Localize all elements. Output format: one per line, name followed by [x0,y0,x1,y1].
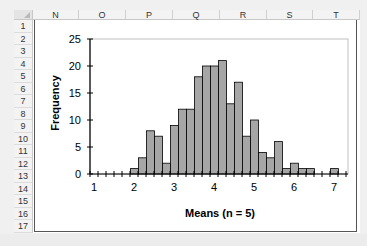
y-axis-title: Frequency [49,74,61,131]
row-header-1[interactable]: 1 [14,20,33,33]
row-header-5[interactable]: 5 [14,70,33,83]
column-header-r[interactable]: R [220,10,267,20]
y-tick-label: 15 [69,87,81,99]
row-header-9[interactable]: 9 [14,120,33,133]
row-header-10[interactable]: 10 [14,133,33,146]
row-header-16[interactable]: 16 [14,208,33,221]
spreadsheet: NOPQRST 1234567891011121314151617 051015… [0,0,367,246]
x-tick-label: 7 [331,181,337,193]
histogram-bar [147,131,155,174]
column-header-p[interactable]: P [126,10,173,20]
select-all-corner[interactable] [14,10,33,20]
row-header-15[interactable]: 15 [14,195,33,208]
histogram-bar [283,169,291,174]
histogram-bar [203,66,211,174]
histogram-bar [139,158,147,174]
row-header-8[interactable]: 8 [14,108,33,121]
histogram-bar [187,109,195,174]
histogram-bar [211,66,219,174]
y-tick-label: 5 [75,141,81,153]
histogram-bar [307,169,315,174]
row-header-6[interactable]: 6 [14,83,33,96]
histogram-bar [251,120,259,174]
histogram-bar [163,163,171,174]
histogram-bars [131,61,339,174]
histogram-bar [331,169,339,174]
x-axis-title: Means (n = 5) [185,207,255,219]
column-header-o[interactable]: O [79,10,126,20]
x-tick-label: 1 [91,181,97,193]
x-tick-label: 4 [211,181,217,193]
row-header-2[interactable]: 2 [14,33,33,46]
y-tick-label: 0 [75,168,81,180]
histogram-bar [171,125,179,174]
x-tick-label: 6 [291,181,297,193]
row-header-12[interactable]: 12 [14,158,33,171]
histogram-bar [299,169,307,174]
histogram-bar [243,136,251,174]
histogram-bar [195,77,203,174]
histogram-bar [235,82,243,174]
x-tick-label: 3 [171,181,177,193]
row-header-14[interactable]: 14 [14,183,33,196]
row-header-13[interactable]: 13 [14,170,33,183]
histogram-bar [131,169,139,174]
row-header-17[interactable]: 17 [14,220,33,233]
histogram-bar [219,61,227,174]
x-tick-label: 5 [251,181,257,193]
row-header-4[interactable]: 4 [14,58,33,71]
y-tick-label: 20 [69,60,81,72]
column-header-t[interactable]: T [313,10,360,20]
y-tick-label: 25 [69,33,81,45]
histogram-bar [267,158,275,174]
row-header-11[interactable]: 11 [14,145,33,158]
column-header-s[interactable]: S [267,10,313,20]
column-header-n[interactable]: N [33,10,79,20]
column-header-q[interactable]: Q [173,10,220,20]
y-tick-label: 10 [69,114,81,126]
row-header-3[interactable]: 3 [14,45,33,58]
histogram-bar [179,109,187,174]
histogram-bar [259,152,267,174]
row-header-7[interactable]: 7 [14,95,33,108]
histogram-bar [155,136,163,174]
sheet-bottom-area [0,234,367,246]
chart-object[interactable]: 05101520251234567 Frequency Means (n = 5… [34,20,357,232]
histogram-bar [275,142,283,174]
histogram-bar [227,104,235,174]
histogram-bar [291,163,299,174]
histogram-chart: 05101520251234567 Frequency Means (n = 5… [35,20,358,232]
x-tick-label: 2 [131,181,137,193]
